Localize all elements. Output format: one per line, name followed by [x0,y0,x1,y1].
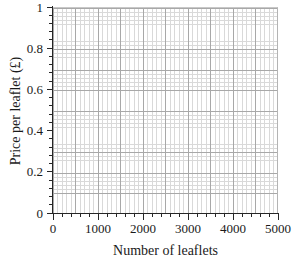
x-axis-minor-tick [161,214,162,217]
x-axis-minor-tick [260,214,261,217]
x-axis-minor-tick [170,214,171,217]
x-axis-minor-tick [80,214,81,217]
x-axis-minor-tick [125,214,126,217]
x-axis-title: Number of leaflets [53,242,278,259]
x-axis-minor-tick [116,214,117,217]
x-axis-minor-tick [179,214,180,217]
y-axis-line [52,6,53,214]
x-axis-major-tick [188,214,189,220]
x-axis-minor-tick [62,214,63,217]
x-axis-minor-tick [206,214,207,217]
x-axis-minor-tick [89,214,90,217]
x-axis-minor-tick [251,214,252,217]
x-axis-line [52,213,279,214]
x-axis-minor-tick [107,214,108,217]
x-axis-major-tick [233,214,234,220]
x-axis-major-tick [278,214,279,220]
x-axis-major-tick [53,214,54,220]
x-axis-major-tick [143,214,144,220]
graph-paper-chart: 00.20.40.60.81 010002000300040005000 Num… [0,0,293,266]
x-axis-minor-tick [269,214,270,217]
x-tick-label: 5000 [248,221,293,236]
x-tick-label: 0 [23,221,83,236]
x-tick-label: 1000 [68,221,128,236]
x-axis-minor-tick [242,214,243,217]
x-axis-major-tick [98,214,99,220]
x-axis-minor-tick [152,214,153,217]
x-tick-label: 3000 [158,221,218,236]
x-axis-minor-tick [71,214,72,217]
y-axis-title: Price per leaflet (£) [8,8,24,214]
x-tick-label: 2000 [113,221,173,236]
x-axis-minor-tick [224,214,225,217]
x-tick-label: 4000 [203,221,263,236]
x-axis-minor-tick [215,214,216,217]
plot-area-grid [53,7,278,213]
x-axis-minor-tick [134,214,135,217]
x-axis-minor-tick [197,214,198,217]
